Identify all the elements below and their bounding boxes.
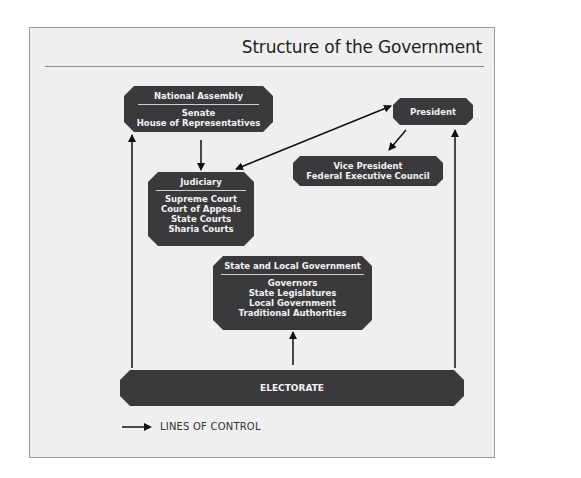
node-line: Senate <box>124 108 273 118</box>
node-line: Traditional Authorities <box>213 308 372 318</box>
node-line: House of Representatives <box>124 118 273 128</box>
node-heading: State and Local Government <box>221 256 364 275</box>
arrow-right-icon <box>122 422 152 432</box>
node-national-assembly: National Assembly Senate House of Repres… <box>124 86 273 132</box>
node-line: Court of Appeals <box>148 204 254 214</box>
node-line: Federal Executive Council <box>306 171 429 181</box>
node-line: Local Government <box>213 298 372 308</box>
node-president: President <box>393 98 473 125</box>
node-line: Sharia Courts <box>148 224 254 234</box>
node-heading: Judiciary <box>156 172 246 191</box>
node-line: Vice President <box>333 161 402 171</box>
title-rule <box>45 66 484 67</box>
legend-label: LINES OF CONTROL <box>160 421 261 432</box>
node-state-local-government: State and Local Government Governors Sta… <box>213 256 372 330</box>
legend: LINES OF CONTROL <box>122 421 261 432</box>
node-vice-president: Vice President Federal Executive Council <box>293 156 443 186</box>
node-line: State Legislatures <box>213 288 372 298</box>
node-electorate: ELECTORATE <box>120 370 464 406</box>
node-line: Supreme Court <box>148 194 254 204</box>
diagram-title: Structure of the Government <box>242 37 482 57</box>
node-heading: National Assembly <box>138 86 259 105</box>
node-line: Governors <box>213 278 372 288</box>
node-judiciary: Judiciary Supreme Court Court of Appeals… <box>148 172 254 246</box>
node-line: State Courts <box>148 214 254 224</box>
node-label: ELECTORATE <box>260 383 324 393</box>
node-label: President <box>410 107 456 117</box>
